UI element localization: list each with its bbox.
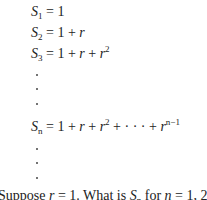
var-s: S — [31, 119, 38, 134]
text: for — [141, 188, 164, 200]
rhs-part: = 1 + — [46, 119, 79, 134]
rhs-part: + — [85, 46, 100, 61]
subscript: 1 — [38, 11, 43, 21]
rhs: = 1 — [46, 4, 64, 19]
rhs-part: + — [85, 119, 100, 134]
equation-sn: Sn = 1 + r + r2 + · · · + rn−1 — [31, 119, 180, 135]
ellipsis-dot — [36, 148, 38, 150]
equation-s3: S3 = 1 + r + r2 — [31, 46, 110, 62]
question-text: Suppose r = 1. What is Sn for n = 1, 2, … — [0, 188, 207, 200]
text: Suppose — [0, 188, 49, 200]
ellipsis-dot — [36, 177, 38, 179]
ellipsis-dot — [36, 103, 38, 105]
rhs: = 1 + — [46, 25, 79, 40]
var-s: S — [130, 188, 137, 200]
var-s: S — [31, 4, 38, 19]
subscript: 3 — [38, 53, 43, 63]
ellipsis-dot — [36, 88, 38, 90]
var-s: S — [31, 46, 38, 61]
ellipsis-dot — [36, 74, 38, 76]
var-n: n — [165, 188, 172, 200]
ellipsis-dot — [36, 162, 38, 164]
exponent: n−1 — [166, 117, 180, 127]
var-r: r — [79, 25, 84, 40]
text: = 1, 2, 3 — [172, 188, 207, 200]
exponent: 2 — [105, 44, 110, 54]
text: = 1. What is — [54, 188, 129, 200]
rhs-part: = 1 + — [46, 46, 79, 61]
subscript: n — [38, 126, 43, 136]
equation-s1: S1 = 1 — [31, 4, 64, 20]
subscript: 2 — [38, 32, 43, 42]
equation-s2: S2 = 1 + r — [31, 25, 85, 41]
rhs-part: + · · · + — [110, 119, 161, 134]
var-s: S — [31, 25, 38, 40]
